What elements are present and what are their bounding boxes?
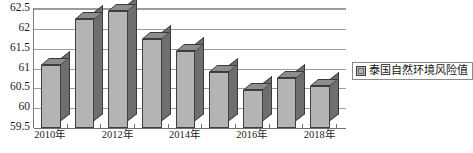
y-axis-tick-label: 61 [0, 62, 30, 74]
bar [277, 71, 297, 128]
bar-front-face [75, 19, 95, 128]
y-axis-tick-label: 59.5 [0, 121, 30, 133]
x-axis-tick-label: 2018年 [297, 128, 341, 141]
bar [142, 32, 162, 128]
x-axis: 2010年2012年2014年2016年2018年 [33, 128, 351, 144]
x-axis-tick-label: 2012年 [95, 128, 139, 141]
y-axis-tick-label: 60.5 [0, 81, 30, 93]
bar [176, 44, 196, 128]
x-axis-tick-label: 2010年 [28, 128, 72, 141]
x-axis-tick-label: 2016年 [230, 128, 274, 141]
bar-front-face [142, 39, 162, 128]
bar-front-face [209, 72, 229, 128]
bar [108, 4, 128, 128]
y-axis-tick-label: 62.5 [0, 2, 30, 14]
chart-legend: 泰国自然环境风险值 [352, 62, 473, 80]
gridline [34, 9, 346, 10]
bar-side-face [162, 25, 171, 121]
plot-area [33, 8, 346, 128]
bar-front-face [41, 65, 61, 128]
bar-front-face [108, 11, 128, 128]
y-axis-tick-label: 62 [0, 22, 30, 34]
x-axis-tick-label: 2014年 [163, 128, 207, 141]
legend-swatch-icon [356, 66, 366, 76]
bar-front-face [176, 51, 196, 128]
legend-item-label: 泰国自然环境风险值 [369, 65, 468, 77]
bar [75, 12, 95, 128]
bar-side-face [94, 5, 103, 121]
bar [209, 65, 229, 128]
y-axis-tick-label: 60 [0, 101, 30, 113]
y-axis: 62.56261.56160.56059.5 [0, 0, 30, 140]
bar-side-face [128, 0, 137, 121]
bar [41, 58, 61, 128]
y-axis-tick-label: 61.5 [0, 42, 30, 54]
